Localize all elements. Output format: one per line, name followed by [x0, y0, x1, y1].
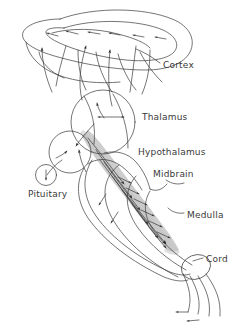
label-pituitary: Pituitary	[28, 189, 68, 199]
label-cortex: Cortex	[163, 60, 194, 70]
label-thalamus: Thalamus	[141, 112, 188, 122]
label-cord: Cord	[206, 254, 228, 264]
label-medulla: Medulla	[187, 210, 224, 220]
thalamus-inflow-arrow	[97, 103, 104, 118]
cortex-surface-arrows	[47, 31, 166, 39]
neuroanatomy-diagram: Cortex Thalamus Hypothalamus Midbrain Me…	[0, 0, 240, 332]
pituitary-stalk	[47, 160, 62, 175]
thalamus-circle	[71, 90, 135, 154]
cord-outflow-arrows	[176, 312, 199, 321]
figure-canvas: Cortex Thalamus Hypothalamus Midbrain Me…	[0, 0, 240, 332]
label-midbrain: Midbrain	[153, 169, 194, 179]
diagram-labels: Cortex Thalamus Hypothalamus Midbrain Me…	[28, 60, 228, 264]
label-hypothalamus: Hypothalamus	[138, 147, 206, 157]
cortex-outline	[23, 10, 193, 83]
cord-fibres	[183, 274, 220, 316]
hypothalamus-circle	[49, 131, 91, 173]
